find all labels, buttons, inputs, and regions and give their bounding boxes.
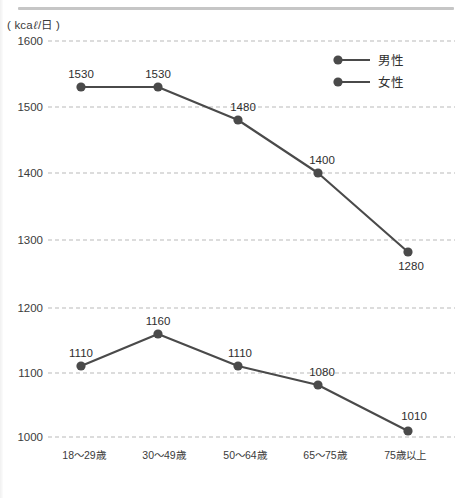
data-point-label: 1010 (401, 410, 427, 422)
y-tick-label: 1400 (17, 167, 43, 179)
data-point (153, 329, 162, 338)
legend-item-male[interactable]: 男性 (333, 54, 404, 68)
legend-marker-female (333, 77, 342, 86)
upper-gridlines (48, 41, 455, 240)
y-tick-label: 1000 (17, 431, 43, 443)
data-point (153, 82, 162, 91)
dual-line-chart: 1600 1500 1400 1300 1530 1530 1480 1400 … (0, 0, 461, 498)
data-point (76, 82, 85, 91)
legend-label-male: 男性 (378, 54, 404, 68)
legend-label-female: 女性 (378, 75, 404, 90)
y-tick-label: 1300 (17, 234, 43, 246)
legend-marker-male (333, 55, 342, 64)
data-point (233, 115, 242, 124)
data-point-label: 1530 (145, 68, 171, 80)
x-tick-label: 18〜29歳 (62, 449, 106, 461)
x-tick-label: 75歳以上 (384, 449, 426, 461)
data-point (403, 426, 412, 435)
data-point-label: 1110 (228, 347, 252, 359)
data-point (403, 247, 412, 256)
y-tick-label: 1100 (18, 367, 43, 379)
x-tick-label: 65〜75歳 (303, 449, 347, 461)
legend-item-female[interactable]: 女性 (333, 75, 404, 90)
data-point-label: 1110 (69, 347, 93, 359)
chart-page: ( kcaℓ/日 ) 1600 1500 1400 1300 (0, 0, 461, 498)
x-tick-label: 30〜49歳 (142, 449, 186, 461)
upper-chart-group: 1600 1500 1400 1300 1530 1530 1480 1400 … (17, 35, 455, 272)
data-point-label: 1080 (309, 366, 335, 378)
lower-y-tick-labels: 1200 1100 1000 (17, 302, 43, 443)
y-tick-label: 1200 (17, 302, 43, 314)
data-point (76, 361, 85, 370)
y-tick-label: 1500 (17, 101, 43, 113)
y-tick-label: 1600 (17, 35, 43, 47)
upper-y-tick-labels: 1600 1500 1400 1300 (17, 35, 43, 246)
data-point-label: 1530 (68, 68, 94, 80)
data-point-label: 1280 (398, 260, 424, 272)
data-point-label: 1480 (230, 101, 256, 113)
lower-chart-group: 1200 1100 1000 1110 1160 1110 1080 1010 (17, 302, 455, 443)
x-axis-category-labels: 18〜29歳 30〜49歳 50〜64歳 65〜75歳 75歳以上 (62, 449, 426, 461)
data-point (313, 168, 322, 177)
data-point (233, 361, 242, 370)
chart-legend: 男性 女性 (333, 54, 404, 90)
series-points-female (76, 329, 412, 435)
lower-gridlines (48, 308, 455, 437)
series-value-labels-male: 1530 1530 1480 1400 1280 (68, 68, 424, 272)
data-point-label: 1160 (146, 315, 171, 327)
data-point-label: 1400 (309, 154, 335, 166)
data-point (313, 380, 322, 389)
x-tick-label: 50〜64歳 (223, 449, 267, 461)
